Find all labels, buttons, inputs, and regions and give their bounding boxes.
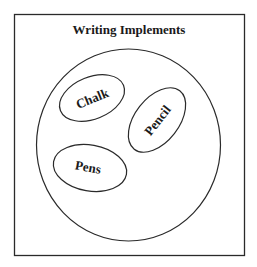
pencil-label: Pencil [141, 102, 174, 138]
subset-pencil: Pencil [117, 77, 197, 162]
frame-border [15, 15, 245, 256]
pens-label: Pens [74, 158, 102, 177]
outer-set-circle [37, 49, 221, 241]
venn-diagram: Writing Implements Chalk Pencil Pens [0, 0, 257, 267]
subset-pens: Pens [50, 139, 131, 197]
diagram-title: Writing Implements [73, 22, 186, 37]
chalk-label: Chalk [74, 85, 112, 112]
